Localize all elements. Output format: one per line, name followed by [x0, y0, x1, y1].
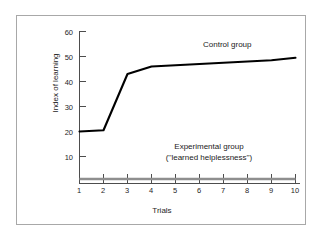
chart-canvas [17, 16, 307, 226]
experimental-group-annotation: Experimental group (''learned helplessne… [129, 142, 289, 163]
experimental-group-annotation-line2: (''learned helplessness'') [129, 153, 289, 164]
control-group-annotation: Control group [203, 40, 251, 51]
control-group-annotation-text: Control group [203, 40, 251, 49]
x-axis-title: Trials [17, 199, 307, 217]
x-axis-title-text: Trials [152, 206, 171, 215]
series-line-control-group [80, 58, 296, 132]
plot-area: Index of learning 60 50 40 30 20 10 1 2 … [17, 16, 307, 226]
chart-figure-frame: Index of learning 60 50 40 30 20 10 1 2 … [16, 15, 306, 225]
experimental-group-annotation-line1: Experimental group [129, 142, 289, 153]
